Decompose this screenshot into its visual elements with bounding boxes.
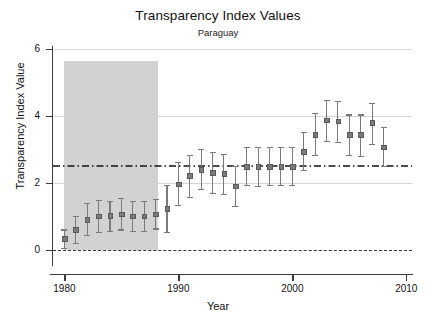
data-point-marker xyxy=(176,182,182,188)
y-tick-label: 4 xyxy=(18,111,40,121)
data-point-marker xyxy=(244,164,250,170)
error-bar-cap-upper xyxy=(255,147,261,148)
error-bar-cap-upper xyxy=(210,152,216,153)
error-bar-cap-upper xyxy=(73,216,79,217)
zero-baseline xyxy=(53,250,412,251)
data-point-marker xyxy=(267,164,273,170)
error-bar-cap-upper xyxy=(358,114,364,115)
gridline xyxy=(53,49,412,50)
error-bar-cap-upper xyxy=(96,200,102,201)
error-bar-cap-lower xyxy=(210,193,216,194)
x-axis-line xyxy=(50,274,413,275)
data-point-marker xyxy=(96,214,102,220)
data-point-marker xyxy=(301,149,307,155)
error-bar-cap-lower xyxy=(118,229,124,230)
error-bar-cap-lower xyxy=(335,142,341,143)
error-bar-cap-lower xyxy=(198,189,204,190)
x-axis-title: Year xyxy=(0,300,436,312)
error-bar-cap-lower xyxy=(289,185,295,186)
data-point-marker xyxy=(256,164,262,170)
error-bar-cap-lower xyxy=(232,206,238,207)
error-bar-cap-lower xyxy=(346,155,352,156)
data-point-marker xyxy=(313,132,319,138)
data-point-marker xyxy=(187,173,193,179)
error-bar-cap-upper xyxy=(267,147,273,148)
x-tick-mark xyxy=(406,275,407,281)
chart-title: Transparency Index Values xyxy=(0,8,436,23)
data-point-marker xyxy=(153,212,159,218)
error-bar-cap-lower xyxy=(96,232,102,233)
data-point-marker xyxy=(324,118,330,124)
error-bar-cap-upper xyxy=(164,185,170,186)
chart-subtitle: Paraguay xyxy=(0,27,436,38)
error-bar-cap-upper xyxy=(346,114,352,115)
error-bar-cap-upper xyxy=(221,154,227,155)
y-tick-label: 6 xyxy=(18,44,40,54)
error-bar-cap-upper xyxy=(324,100,330,101)
error-bar-cap-upper xyxy=(141,201,147,202)
error-bar-cap-lower xyxy=(358,156,364,157)
data-point-marker xyxy=(279,164,285,170)
error-bar-cap-lower xyxy=(153,228,159,229)
error-bar-cap-lower xyxy=(84,235,90,236)
plot-area xyxy=(53,49,412,262)
error-bar-cap-lower xyxy=(61,248,67,249)
error-bar-cap-upper xyxy=(232,166,238,167)
error-bar-cap-upper xyxy=(84,203,90,204)
x-tick-mark xyxy=(64,275,65,281)
data-point-marker xyxy=(370,120,376,126)
data-point-marker xyxy=(222,171,228,177)
error-bar-cap-upper xyxy=(381,127,387,128)
error-bar-cap-upper xyxy=(244,147,250,148)
x-tick-label: 2000 xyxy=(269,284,315,294)
error-bar-cap-lower xyxy=(301,170,307,171)
y-tick-label: 0 xyxy=(18,245,40,255)
x-tick-mark xyxy=(292,275,293,281)
error-bar-cap-upper xyxy=(130,201,136,202)
data-point-marker xyxy=(85,217,91,223)
y-tick-label: 2 xyxy=(18,178,40,188)
error-bar-cap-upper xyxy=(153,199,159,200)
error-bar-cap-lower xyxy=(73,243,79,244)
error-bar-cap-lower xyxy=(381,166,387,167)
error-bar-cap-lower xyxy=(369,144,375,145)
chart-container: Transparency Index Values Paraguay Trans… xyxy=(0,0,436,319)
error-bar-cap-lower xyxy=(267,185,273,186)
error-bar-cap-upper xyxy=(61,229,67,230)
error-bar-cap-lower xyxy=(130,231,136,232)
data-point-marker xyxy=(199,167,205,173)
error-bar-cap-lower xyxy=(164,232,170,233)
x-tick-mark xyxy=(178,275,179,281)
error-bar-cap-lower xyxy=(312,155,318,156)
data-point-marker xyxy=(73,227,79,233)
error-bar-cap-upper xyxy=(312,113,318,114)
data-point-marker xyxy=(336,119,342,125)
error-bar-cap-lower xyxy=(141,231,147,232)
x-tick-label: 1980 xyxy=(41,284,87,294)
y-tick-mark xyxy=(46,250,52,251)
data-point-marker xyxy=(108,213,114,219)
error-bar-cap-lower xyxy=(255,186,261,187)
error-bar-cap-upper xyxy=(278,147,284,148)
error-bar-cap-upper xyxy=(187,155,193,156)
data-point-marker xyxy=(233,184,239,190)
error-bar-cap-upper xyxy=(301,132,307,133)
error-bar-cap-upper xyxy=(335,101,341,102)
y-tick-mark xyxy=(46,183,52,184)
data-point-marker xyxy=(130,214,136,220)
error-bar-cap-upper xyxy=(289,147,295,148)
error-bar-cap-upper xyxy=(118,198,124,199)
data-point-marker xyxy=(210,170,216,176)
error-bar-cap-lower xyxy=(107,231,113,232)
error-bar-cap-lower xyxy=(324,141,330,142)
error-bar-cap-lower xyxy=(175,205,181,206)
data-point-marker xyxy=(62,236,68,242)
y-axis-title: Transparency Index Value xyxy=(14,6,26,246)
x-tick-label: 1990 xyxy=(155,284,201,294)
data-point-marker xyxy=(119,212,125,218)
error-bar-cap-lower xyxy=(187,197,193,198)
data-point-marker xyxy=(142,214,148,220)
data-point-marker xyxy=(290,164,296,170)
y-tick-mark xyxy=(46,49,52,50)
error-bar-cap-upper xyxy=(198,149,204,150)
